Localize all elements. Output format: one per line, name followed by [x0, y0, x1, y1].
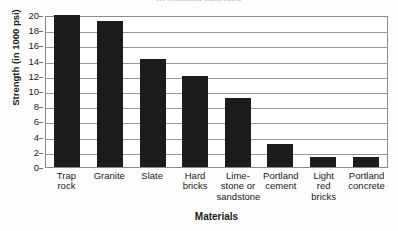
x-axis-title: Materials: [45, 211, 388, 222]
bar: [140, 59, 166, 167]
y-tick-mark: [39, 77, 43, 78]
bar: [225, 98, 251, 167]
bar-slot: [217, 17, 260, 167]
x-tick-label: Hard bricks: [174, 171, 217, 202]
y-tick-mark: [39, 16, 43, 17]
y-tick-mark: [39, 153, 43, 154]
y-tick-label: 20: [28, 11, 39, 21]
bar: [97, 21, 123, 167]
x-tick-label: Portland cement: [259, 171, 302, 202]
y-axis-title: Strength (in 1000 psi): [10, 0, 21, 128]
y-tick-mark: [39, 46, 43, 47]
y-tick-mark: [39, 92, 43, 93]
bar: [353, 157, 379, 167]
x-axis-tick-labels: Trap rockGraniteSlateHard bricksLime- st…: [45, 171, 388, 202]
x-tick-label: Portland concrete: [345, 171, 388, 202]
y-tick-label: 14: [28, 57, 39, 67]
y-tick-mark: [39, 107, 43, 108]
bar-slot: [174, 17, 217, 167]
x-tick-label: Lime- stone or sandstone: [217, 171, 260, 202]
x-tick-label: Trap rock: [45, 171, 88, 202]
bar-slot: [259, 17, 302, 167]
x-tick-label: Granite: [88, 171, 131, 202]
y-tick-mark: [39, 168, 43, 169]
y-tick-label: 12: [28, 72, 39, 82]
bar: [54, 15, 80, 167]
y-tick-mark: [39, 122, 43, 123]
bar: [182, 76, 208, 167]
bar-slot: [302, 17, 345, 167]
plot-area: [45, 16, 388, 168]
bar-slot: [131, 17, 174, 167]
bar-slot: [344, 17, 387, 167]
y-axis-tick-labels: 20181614121086420: [20, 16, 42, 168]
x-tick-label: Light red bricks: [302, 171, 345, 202]
bar-slot: [89, 17, 132, 167]
x-tick-label: Slate: [131, 171, 174, 202]
bar: [267, 144, 293, 167]
bar-series: [46, 17, 387, 167]
bar: [310, 157, 336, 167]
y-tick-mark: [39, 62, 43, 63]
y-tick-mark: [39, 138, 43, 139]
y-tick-label: 16: [28, 42, 39, 52]
y-tick-label: 10: [28, 87, 39, 97]
chart-title: of common materials: [0, 0, 398, 1]
chart-figure: of common materials Strength (in 1000 ps…: [0, 0, 398, 231]
bar-slot: [46, 17, 89, 167]
y-tick-label: 18: [28, 26, 39, 36]
y-tick-mark: [39, 31, 43, 32]
